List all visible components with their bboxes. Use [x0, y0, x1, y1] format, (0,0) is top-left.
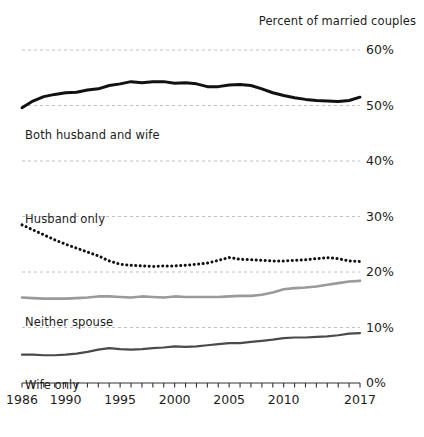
series-label-wife-only: Wife only	[25, 378, 79, 392]
series-label-husband-only: Husband only	[25, 212, 105, 226]
series-label-neither-spouse: Neither spouse	[25, 315, 113, 329]
y-axis-tick-label: 30%	[366, 209, 394, 224]
x-axis-tick-label: 1990	[50, 392, 82, 407]
y-axis-tick-label: 50%	[366, 98, 394, 113]
x-axis-tick-label: 2005	[213, 392, 245, 407]
y-axis-tick-label: 60%	[366, 42, 394, 57]
x-axis-tick-label: 1986	[6, 392, 38, 407]
x-axis-tick-label: 2000	[159, 392, 191, 407]
series-line-wife-only	[22, 333, 360, 355]
series-line-husband-only	[22, 225, 360, 267]
x-axis-tick-label: 1995	[104, 392, 136, 407]
series-label-both-husband-and-wife: Both husband and wife	[25, 128, 160, 142]
series-line-neither-spouse	[22, 281, 360, 299]
y-axis-tick-label: 10%	[366, 320, 394, 335]
y-axis-tick-label: 20%	[366, 264, 394, 279]
x-axis-tick-label: 2017	[344, 392, 376, 407]
series-line-both-husband-and-wife	[22, 82, 360, 108]
x-axis-tick-label: 2010	[268, 392, 300, 407]
y-axis-tick-label: 0%	[366, 375, 386, 390]
chart-figure: Percent of married couples 60%50%40%30%2…	[0, 0, 424, 437]
y-axis-tick-label: 40%	[366, 153, 394, 168]
